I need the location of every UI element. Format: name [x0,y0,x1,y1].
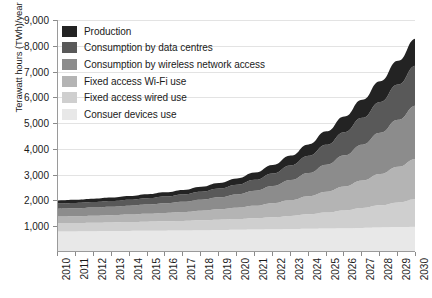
legend-label: Consuer devices use [84,109,176,120]
y-tick-label: 1,000 [24,221,49,232]
chart-legend: ProductionConsumption by data centresCon… [62,23,312,123]
y-axis-ticks: 1,0002,0003,0004,0005,0006,0007,0008,000… [0,0,57,298]
y-tick-label: 4,000 [24,143,49,154]
x-tick-mark [218,252,219,256]
x-tick-mark [57,252,58,256]
y-tick-label: 8,000 [24,40,49,51]
x-tick-mark [415,252,416,256]
legend-swatch-icon [62,92,77,103]
x-tick-label: 2020 [240,258,251,280]
x-tick-mark [182,252,183,256]
x-tick-label: 2017 [186,258,197,280]
y-tick-label: 6,000 [24,92,49,103]
x-tick-label: 2029 [401,258,412,280]
x-tick-mark [379,252,380,256]
legend-label: Consumption by wireless network access [84,59,265,70]
x-tick-mark [129,252,130,256]
x-tick-mark [272,252,273,256]
x-tick-label: 2014 [133,258,144,280]
legend-swatch-icon [62,76,77,87]
legend-label: Fixed access Wi-Fi use [84,76,186,87]
x-tick-mark [75,252,76,256]
x-tick-mark [254,252,255,256]
legend-item: Consumption by data centres [62,40,312,57]
legend-swatch-icon [62,42,77,53]
x-tick-label: 2019 [222,258,233,280]
legend-item: Consumption by wireless network access [62,56,312,73]
x-tick-label: 2015 [151,258,162,280]
y-tick-label: 2,000 [24,195,49,206]
y-tick-label: 9,000 [24,15,49,26]
x-tick-mark [93,252,94,256]
x-tick-label: 2010 [61,258,72,280]
stacked-area-chart: Terawatt hours (TWh)/year 1,0002,0003,00… [0,0,432,298]
x-tick-mark [326,252,327,256]
x-tick-mark [290,252,291,256]
x-tick-label: 2012 [97,258,108,280]
legend-swatch-icon [62,59,77,70]
x-tick-label: 2028 [383,258,394,280]
y-tick-label: 7,000 [24,66,49,77]
y-tick-label: 3,000 [24,169,49,180]
x-tick-label: 2024 [312,258,323,280]
x-tick-label: 2011 [79,258,90,280]
x-tick-mark [397,252,398,256]
legend-label: Consumption by data centres [84,42,213,53]
x-tick-mark [308,252,309,256]
x-tick-label: 2022 [276,258,287,280]
x-tick-mark [200,252,201,256]
x-tick-mark [147,252,148,256]
legend-item: Fixed access wired use [62,89,312,106]
legend-swatch-icon [62,109,77,120]
x-tick-label: 2025 [330,258,341,280]
x-tick-label: 2026 [347,258,358,280]
legend-item: Consuer devices use [62,106,312,123]
x-axis-ticks: 2010201120122013201420152016201720182019… [57,252,415,298]
legend-label: Production [84,26,131,37]
x-tick-label: 2023 [294,258,305,280]
x-tick-label: 2021 [258,258,269,280]
y-tick-label: 5,000 [24,118,49,129]
x-tick-mark [343,252,344,256]
x-tick-label: 2016 [168,258,179,280]
legend-item: Production [62,23,312,40]
x-tick-label: 2013 [115,258,126,280]
x-tick-mark [236,252,237,256]
x-tick-label: 2027 [365,258,376,280]
x-tick-label: 2030 [419,258,430,280]
legend-item: Fixed access Wi-Fi use [62,73,312,90]
x-tick-label: 2018 [204,258,215,280]
x-tick-mark [164,252,165,256]
x-tick-mark [111,252,112,256]
x-tick-mark [361,252,362,256]
legend-swatch-icon [62,26,77,37]
legend-label: Fixed access wired use [84,92,187,103]
